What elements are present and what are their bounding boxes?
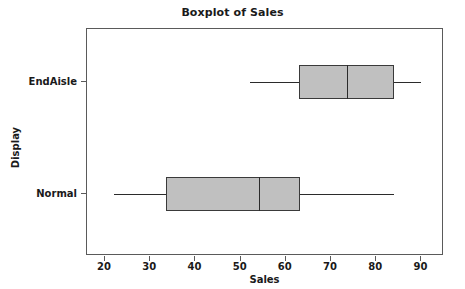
x-axis-tick-label: 70 xyxy=(310,261,350,272)
x-axis-tick-label: 20 xyxy=(84,261,124,272)
x-axis-title: Sales xyxy=(86,274,443,285)
y-axis-tick-label: Normal xyxy=(36,188,77,199)
whisker-upper xyxy=(394,82,421,83)
x-axis-tick-label: 90 xyxy=(400,261,440,272)
median-line xyxy=(347,65,348,99)
y-axis-title: Display xyxy=(10,118,21,178)
x-axis-tick-label: 50 xyxy=(220,261,260,272)
whisker-lower xyxy=(250,82,300,83)
x-axis-tick-label: 40 xyxy=(174,261,214,272)
x-axis-tick-label: 30 xyxy=(129,261,169,272)
plot-inner xyxy=(87,29,442,254)
y-axis-tick-label: EndAisle xyxy=(29,76,77,87)
x-axis-tick-label: 60 xyxy=(265,261,305,272)
whisker-lower xyxy=(114,194,166,195)
median-line xyxy=(259,177,260,211)
whisker-upper xyxy=(300,194,394,195)
plot-area xyxy=(86,28,443,255)
page-title: Boxplot of Sales xyxy=(0,6,465,19)
y-axis-tick xyxy=(81,81,86,82)
y-axis-tick xyxy=(81,193,86,194)
boxplot-chart: Boxplot of Sales 2030405060708090 EndAis… xyxy=(0,0,465,289)
box-iqr xyxy=(166,177,301,211)
x-axis-tick-label: 80 xyxy=(355,261,395,272)
